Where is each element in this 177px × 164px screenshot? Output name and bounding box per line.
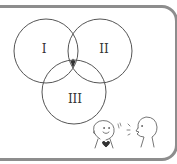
heart-icon [102, 141, 109, 147]
speech-lines-icon [127, 124, 130, 135]
set-label-2: II [99, 42, 109, 56]
set-label-3: III [68, 92, 82, 106]
speaker-figure-icon [136, 117, 157, 147]
listener-figure-icon [93, 121, 121, 148]
set-label-1: I [42, 42, 47, 56]
venn-diagram: I II III [0, 0, 177, 164]
